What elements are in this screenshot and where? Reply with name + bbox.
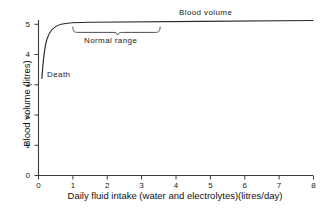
- blood-volume-curve: [42, 21, 313, 79]
- x-tick-label-6: 6: [239, 182, 251, 190]
- blood-volume-chart-figure: 0 1 2 3 4 5 0 1 2 3 4 5 6 7 8 Blood volu…: [0, 0, 325, 211]
- x-tick-label-0: 0: [33, 182, 45, 190]
- y-tick-label-0: 0: [18, 172, 30, 180]
- x-tick-label-2: 2: [101, 182, 113, 190]
- chart-plot-area: [0, 0, 325, 211]
- y-axis-ticks: [35, 24, 39, 175]
- y-tick-label-5: 5: [18, 21, 30, 29]
- x-tick-label-3: 3: [136, 182, 148, 190]
- annotation-blood-volume: Blood volume: [179, 9, 232, 17]
- x-tick-label-1: 1: [67, 182, 79, 190]
- annotation-death: Death: [47, 71, 70, 79]
- x-axis-title: Daily fluid intake (water and electrolyt…: [30, 190, 320, 201]
- y-axis-title: Blood volume (litres): [21, 44, 32, 164]
- x-tick-label-5: 5: [204, 182, 216, 190]
- x-tick-label-7: 7: [273, 182, 285, 190]
- x-tick-label-8: 8: [308, 182, 320, 190]
- axis-lines: [38, 20, 313, 176]
- normal-range-brace: [73, 27, 160, 35]
- annotation-normal-range: Normal range: [84, 37, 137, 45]
- x-tick-label-4: 4: [170, 182, 182, 190]
- x-axis-ticks: [39, 176, 314, 180]
